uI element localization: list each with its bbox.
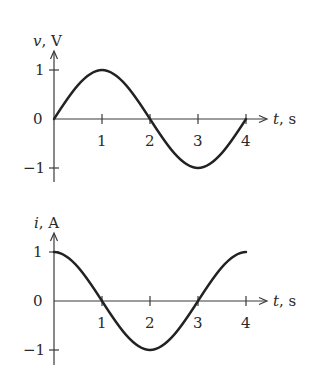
current-y-tick-label: 0 [33, 292, 43, 310]
current-x-tick-label: 1 [97, 314, 107, 332]
voltage-x-tick-label: 3 [193, 132, 203, 150]
voltage-x-tick-label: 4 [241, 132, 251, 150]
voltage-y-tick-label: 1 [35, 61, 45, 79]
voltage-y-tick-label: −1 [23, 159, 45, 177]
current-x-tick-label: 3 [193, 314, 203, 332]
current-x-tick-label: 2 [145, 314, 155, 332]
voltage-chart: v, V 1 0 −1 1 2 3 4 t, s [23, 32, 296, 182]
voltage-x-tick-label: 1 [97, 132, 107, 150]
current-y-tick-label: 1 [33, 243, 43, 261]
voltage-y-tick-label: 0 [33, 110, 43, 128]
voltage-time-axis-label: t, s [273, 110, 296, 128]
current-y-tick-label: −1 [23, 341, 45, 359]
voltage-axis-label: v, V [33, 32, 63, 50]
current-time-axis-label: t, s [273, 292, 296, 310]
current-axis-label: i, A [34, 214, 59, 232]
current-chart: i, A 1 0 −1 1 2 3 4 t, s [23, 214, 296, 365]
voltage-x-tick-label: 2 [145, 132, 155, 150]
chart-figure: v, V 1 0 −1 1 2 3 4 t, s i, A 1 0 −1 1 2… [0, 0, 324, 380]
current-x-tick-label: 4 [241, 314, 251, 332]
